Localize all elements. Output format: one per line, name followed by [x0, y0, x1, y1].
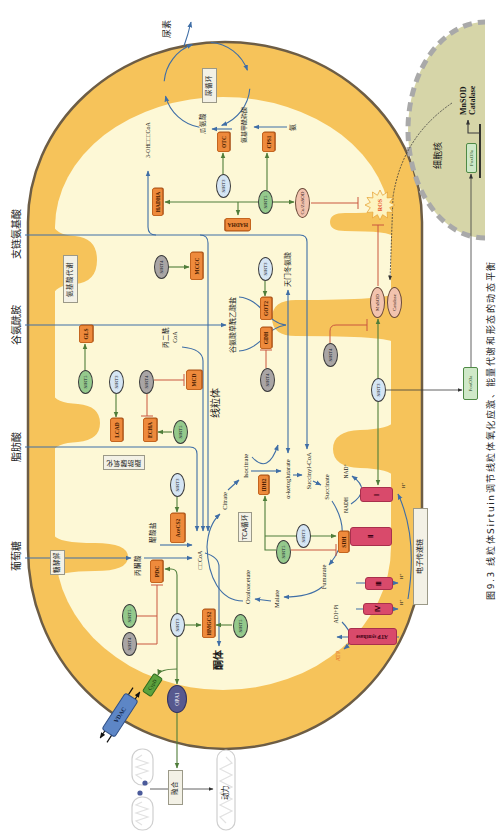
- alpha-ketoglutarate-label: α-ketoglutarate: [285, 459, 292, 499]
- complex-3: Ⅲ: [365, 577, 393, 590]
- acecs2-enzyme: AceCS2: [170, 513, 185, 543]
- mitochondria-sirtuin-diagram: 支链氨基酸 谷氨酰胺 脂肪酸 葡萄糖 线粒体 细胞核 尿循环 氨基酸代谢 脂肪酸…: [0, 0, 498, 837]
- mcd-enzyme: MCD: [186, 370, 202, 390]
- complex-2: Ⅱ: [350, 527, 392, 546]
- fusion-box: 融合: [168, 770, 183, 805]
- proton-label-complex4: H⁺: [399, 599, 404, 606]
- electron-transport-chain-box: 电子传递链: [413, 508, 428, 605]
- sirt3-lcad: SIRT3: [109, 370, 124, 394]
- input-glucose-label: 葡萄糖: [12, 541, 22, 571]
- oxaloacetate-label: Oxaloacetate: [245, 570, 252, 604]
- tca-cycle-box: TCA循环: [238, 512, 252, 542]
- otc-enzyme: OTC: [217, 132, 230, 152]
- sirt5-hadha-cps1: SIRT5: [258, 190, 273, 214]
- pdc-enzyme: PDC: [150, 560, 163, 583]
- nadh-label: NADH: [344, 497, 350, 513]
- sirt3-mnsod: SIRT3: [371, 378, 386, 402]
- target-gene-catalase: Catalase: [468, 86, 477, 115]
- mnsod-node: MnSOD: [370, 287, 385, 318]
- mitochondria-cartoons: [132, 749, 235, 830]
- nucleus-label: 细胞核: [434, 142, 443, 169]
- motility-label: 动力: [222, 786, 230, 800]
- sirt4-mnsod: SIRT4: [323, 343, 338, 367]
- urea-cycle-box: 尿循环: [202, 68, 217, 103]
- acetyl-coa-label: □□CoA: [197, 551, 203, 570]
- malonyl-coa-label-2: CoA: [172, 331, 178, 342]
- target-gene-mnsod: MnSOD: [459, 87, 468, 115]
- sirt3-acecs2: SIRT3: [170, 473, 185, 497]
- fumarate-label: Fumarate: [321, 565, 328, 590]
- malate-label: Malate: [274, 590, 281, 608]
- sirt5-pdc: SIRT5: [122, 604, 137, 628]
- input-bcaa-label: 支链氨基酸: [12, 209, 22, 259]
- proton-label-complex3: H⁺: [399, 573, 404, 580]
- sirt4-pdc: SIRT4: [122, 632, 137, 656]
- foxo3a-nucleus: FoxO3a: [466, 143, 477, 173]
- citrulline-label: 瓜氨酸: [200, 113, 207, 134]
- isocitrate-label: Isocitrate: [243, 454, 250, 478]
- aspartate-label: 天门冬氨酸: [285, 252, 292, 287]
- urea-exit-arrow: [184, 22, 191, 46]
- sirt3-otc: SIRT3: [216, 174, 231, 198]
- hadha-enzyme-flipped: HADHA: [225, 218, 251, 231]
- ros-label: ROS: [377, 199, 383, 211]
- sirt3-pdc-opa1: SIRT3: [170, 613, 185, 637]
- gls-enzyme: GLS: [79, 325, 93, 343]
- atp-synthase: ATP synthase: [348, 628, 397, 645]
- sirt4-mcd-echa: SIRT4: [139, 370, 154, 394]
- foxo3a-cytoplasm: FoxO3a: [463, 367, 478, 400]
- carbamoyl-phosphate-label: 氨基甲酰磷酸: [241, 107, 247, 143]
- malonyl-coa-label-1: 丙二酰: [163, 327, 170, 348]
- urea-label: 尿素: [163, 20, 172, 38]
- sirt4-mccc: SIRT4: [154, 255, 169, 279]
- mitochondrion-label: 线粒体: [211, 388, 221, 418]
- ketone-bodies-label: 酮体: [214, 650, 224, 670]
- amino-acid-metabolism-box: 氨基酸代谢: [63, 255, 78, 303]
- complex-1: Ⅰ: [360, 487, 393, 502]
- fatty-acid-oxidation-box: 脂肪酸氧化: [103, 455, 145, 470]
- lcad-enzyme: LCAD: [110, 418, 123, 442]
- opa1-node: OPA1: [167, 685, 187, 713]
- succinate-label: Succinate: [324, 474, 331, 499]
- sirt5-tca: SIRT5: [276, 540, 291, 564]
- gdh-enzyme: GDH: [260, 327, 272, 349]
- input-fatty-acid-label: 脂肪酸: [12, 432, 22, 462]
- figure-caption: 图9.3 线粒体Sirtuin调节线粒体氧化应激、能量代谢和形态的动态平衡: [487, 260, 496, 600]
- sdh-enzyme: SDH: [338, 531, 349, 553]
- citrate-label: Citrate: [222, 492, 229, 510]
- glutamate-oxaloacetate-label: 谷氨酸草酰乙酸盐: [230, 297, 237, 353]
- cps1-enzyme: CPS1: [262, 132, 275, 152]
- atp-label: ATP: [335, 651, 341, 662]
- sirt5-gls: SIRT5: [78, 370, 93, 394]
- hmgcs2-enzyme: HMGCS2: [202, 609, 215, 638]
- complex-4: Ⅳ: [363, 603, 393, 615]
- adp-pi-label: ADI+Pi: [333, 604, 339, 623]
- acetate-label: 醋酸盐: [150, 522, 157, 543]
- sirt4-gdh: SIRT4: [260, 368, 275, 392]
- mccc-enzyme: MCCC: [190, 252, 203, 280]
- glycolysis-box: 糖酵解: [50, 550, 65, 575]
- got2-enzyme: GOT2: [260, 297, 272, 320]
- echa-enzyme: ECHA: [143, 418, 157, 442]
- cuznsod-node: Cu/ZnSOD: [295, 188, 310, 218]
- succinyl-coa-label: Succinyl-CoA: [306, 452, 313, 489]
- input-glutamine-label: 谷氨酰胺: [12, 305, 22, 345]
- hydroxyacyl-coa-label: 3-OH□□□CoA: [145, 122, 151, 158]
- hadha-enzyme: HADHA: [152, 188, 163, 216]
- ammonia-label: 氨: [290, 124, 297, 131]
- sirt5-hmgcs2: SIRT5: [233, 614, 248, 638]
- sirt3-got2: SIRT3: [258, 257, 273, 281]
- sirt3-tca: SIRT3: [296, 524, 311, 548]
- nad-label: NAD⁺: [344, 464, 350, 479]
- pyruvate-label: 丙酮酸: [135, 555, 142, 576]
- idh2-enzyme: IDH2: [258, 475, 269, 495]
- catalase-node: Catalase: [387, 287, 402, 318]
- sirt5-echa: SIRT5: [173, 420, 188, 444]
- diagram-canvas: [0, 0, 498, 837]
- proton-label-complex1: H⁺: [401, 482, 406, 489]
